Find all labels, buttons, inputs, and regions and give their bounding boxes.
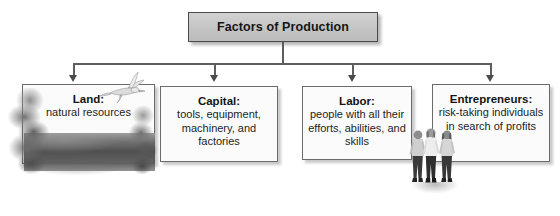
arrow-icon-capital (210, 75, 218, 82)
factors-of-production-diagram: Factors of Production Land: natural reso… (0, 0, 560, 216)
node-capital-heading: Capital: (198, 94, 240, 108)
node-entrepreneurs-heading: Entrepreneurs: (450, 92, 532, 106)
connector-stem (282, 42, 284, 64)
arrow-icon-land (69, 75, 77, 82)
arrow-icon-labor (348, 75, 356, 82)
node-labor-description: people with all their efforts, abilities… (303, 108, 411, 149)
node-entrepreneurs-description: risk-taking individuals in search of pro… (433, 106, 549, 133)
connector-bus (73, 63, 491, 65)
node-capital: Capital: tools, equipment, machinery, an… (160, 86, 278, 162)
arrow-icon-entrepreneurs (486, 75, 494, 82)
node-land: Land: natural resources (22, 84, 155, 164)
people-photo-shadow (404, 182, 466, 194)
root-node-label: Factors of Production (217, 20, 349, 34)
node-capital-description: tools, equipment, machinery, and factori… (161, 108, 277, 149)
node-labor: Labor: people with all their efforts, ab… (302, 86, 412, 160)
node-labor-heading: Labor: (339, 94, 375, 108)
node-land-description: natural resources (41, 106, 136, 120)
root-node-factors-of-production: Factors of Production (188, 12, 378, 42)
node-land-heading: Land: (73, 92, 104, 106)
node-entrepreneurs: Entrepreneurs: risk-taking individuals i… (432, 84, 550, 162)
